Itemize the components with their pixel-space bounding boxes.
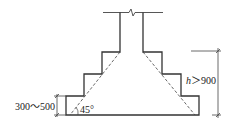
foundation-diagram: 45° 300～500 h＞900 bbox=[0, 0, 233, 133]
column-top-break-line bbox=[103, 9, 163, 16]
step-height-label: 300～500 bbox=[15, 101, 55, 112]
angle-arc bbox=[76, 107, 78, 115]
foundation-outline bbox=[66, 13, 199, 116]
angle-label: 45° bbox=[80, 104, 94, 115]
height-condition: ＞900 bbox=[191, 75, 216, 86]
step-height-dimension bbox=[54, 94, 66, 117]
total-height-label: h＞900 bbox=[186, 75, 216, 86]
